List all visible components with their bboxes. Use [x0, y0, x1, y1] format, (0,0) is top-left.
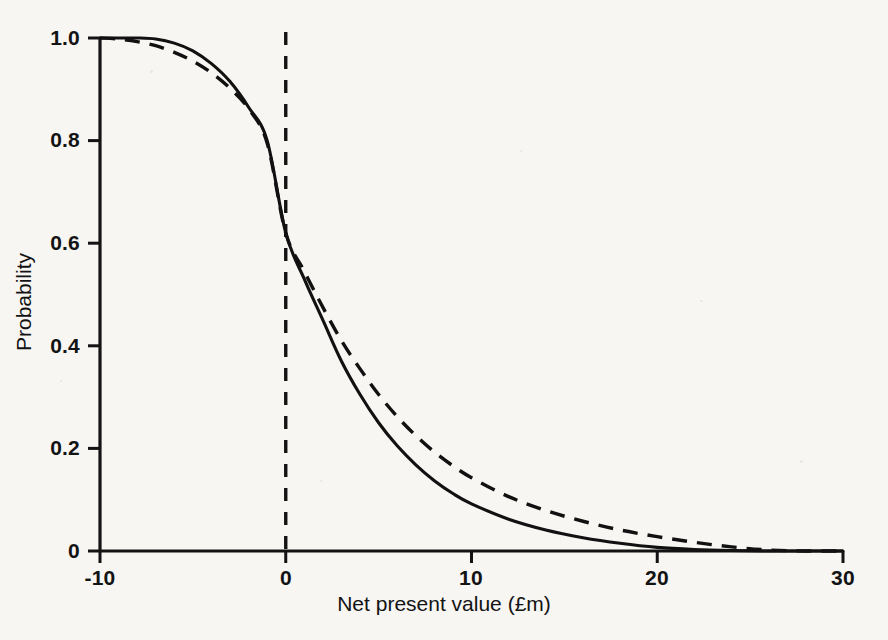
x-axis-title: Net present value (£m): [0, 592, 888, 616]
y-tick-label-0.2: 0.2: [0, 436, 80, 460]
x-tick-label-0: 0: [246, 566, 326, 590]
probability-curve-dashed: [100, 38, 843, 551]
axes: [100, 38, 843, 551]
x-tick-label-20: 20: [617, 566, 697, 590]
probability-curve-solid: [100, 38, 843, 551]
y-tick-label-0.8: 0.8: [0, 128, 80, 152]
x-tick-label-30: 30: [803, 566, 883, 590]
y-axis-ticks: [88, 38, 100, 551]
x-axis-ticks: [100, 551, 843, 563]
y-tick-label-1.0: 1.0: [0, 26, 80, 50]
x-tick-label-10: 10: [431, 566, 511, 590]
y-axis-title: Probability: [12, 202, 36, 402]
chart-figure: 1.0 0.8 0.6 0.4 0.2 0 -10 0 10 20 30 Net…: [0, 0, 888, 640]
chart-canvas: [0, 0, 888, 640]
y-tick-label-0: 0: [0, 539, 80, 563]
x-tick-label--10: -10: [60, 566, 140, 590]
